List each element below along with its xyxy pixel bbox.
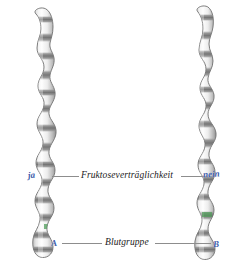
allele-label-fruktose-left: ja [28, 170, 36, 181]
allele-label-blutgruppe-right: B [213, 239, 220, 249]
trait-label-blutgruppe: Blutgruppe [105, 237, 149, 247]
leader-line-blutgruppe-right [155, 243, 211, 244]
trait-label-fruktoseverträglichkeit: Fruktoseverträglichkeit [81, 170, 173, 180]
allele-label-blutgruppe-left: A [50, 238, 57, 249]
chromosome-right-body [195, 6, 216, 260]
locus-marker-green-left [44, 224, 54, 229]
allele-label-fruktose-right: nein [203, 168, 220, 179]
chromosome-left [8, 0, 88, 268]
chromosome-right [172, 0, 251, 268]
leader-line-fruktose-left [52, 176, 79, 177]
locus-marker-green-right [202, 212, 212, 217]
leader-line-blutgruppe-left [62, 243, 102, 244]
chromosome-figure: Fruktoseverträglichkeit Blutgruppe ja ne… [0, 0, 251, 268]
